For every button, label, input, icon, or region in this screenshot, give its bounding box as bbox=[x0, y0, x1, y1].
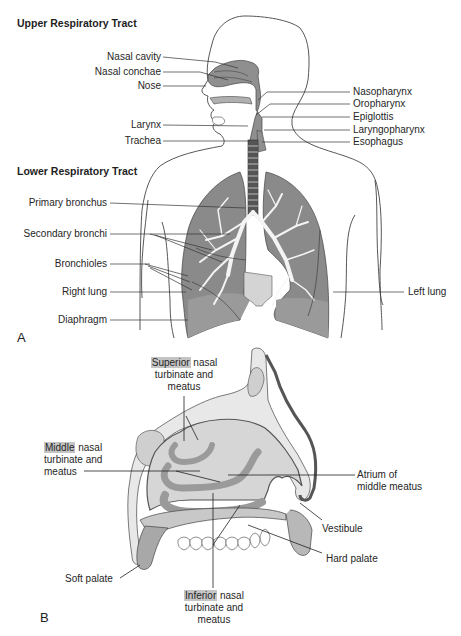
label-secondary-bronchi: Secondary bronchi bbox=[24, 228, 107, 240]
lower-respiratory-heading: Lower Respiratory Tract bbox=[17, 165, 137, 177]
highlight-middle: Middle bbox=[44, 442, 75, 453]
label-trachea: Trachea bbox=[125, 135, 161, 147]
label-esophagus: Esophagus bbox=[353, 136, 403, 148]
label-laryngopharynx: Laryngopharynx bbox=[353, 124, 425, 136]
label-left-lung: Left lung bbox=[408, 286, 446, 298]
label-hard-palate: Hard palate bbox=[326, 553, 378, 565]
upper-airway bbox=[208, 60, 266, 152]
label-inferior-nasal-turbinate: Inferior nasal turbinate and meatus bbox=[177, 590, 251, 626]
label-larynx: Larynx bbox=[131, 119, 161, 131]
panel-letter-b: B bbox=[40, 610, 49, 625]
label-vestibule: Vestibule bbox=[322, 523, 363, 535]
label-oropharynx: Oropharynx bbox=[353, 98, 405, 110]
highlight-superior: Superior bbox=[151, 357, 191, 368]
label-diaphragm: Diaphragm bbox=[58, 314, 107, 326]
label-bronchioles: Bronchioles bbox=[55, 258, 107, 270]
label-middle-nasal-turbinate: Middle nasal turbinate and meatus bbox=[44, 442, 114, 478]
label-nose: Nose bbox=[138, 80, 161, 92]
highlight-inferior: Inferior bbox=[184, 590, 217, 601]
teeth bbox=[178, 529, 270, 550]
label-nasal-cavity: Nasal cavity bbox=[107, 51, 161, 63]
label-primary-bronchus: Primary bronchus bbox=[29, 197, 107, 209]
label-right-lung: Right lung bbox=[62, 286, 107, 298]
label-epiglottis: Epiglottis bbox=[353, 111, 394, 123]
label-atrium-middle-meatus: Atrium of middle meatus bbox=[357, 469, 422, 493]
label-nasopharynx: Nasopharynx bbox=[353, 86, 412, 98]
label-soft-palate: Soft palate bbox=[65, 573, 113, 585]
upper-respiratory-heading: Upper Respiratory Tract bbox=[17, 17, 137, 29]
trachea bbox=[248, 140, 258, 215]
panel-letter-a: A bbox=[17, 330, 26, 345]
label-superior-nasal-turbinate: Superior nasal turbinate and meatus bbox=[148, 357, 220, 393]
label-nasal-conchae: Nasal conchae bbox=[95, 66, 161, 78]
